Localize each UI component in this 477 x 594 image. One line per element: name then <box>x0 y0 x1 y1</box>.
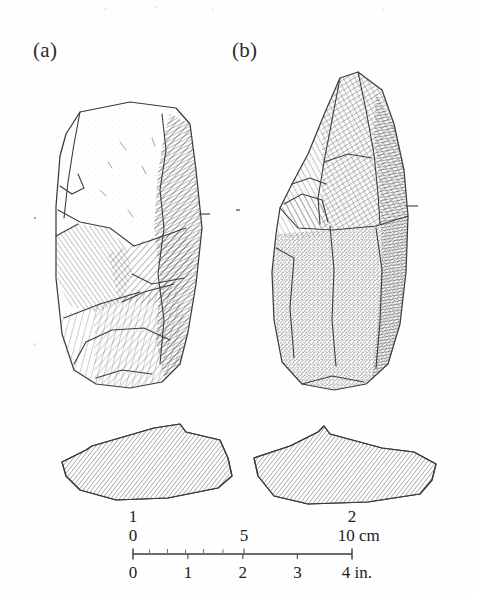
scale-in-label-4: 4 in. <box>342 564 372 581</box>
stone-tool-drawing-b <box>236 58 432 402</box>
scale-bar: 1 2 0 5 10 cm <box>100 508 400 586</box>
figure-canvas: (a) (b) <box>0 0 477 594</box>
scale-bar-line <box>100 546 400 562</box>
panel-label-a: (a) <box>33 40 57 61</box>
stone-tool-drawing-a <box>34 78 224 400</box>
scale-metric-labels: 0 5 10 cm <box>100 527 400 547</box>
scale-in-label-0: 0 <box>129 564 138 581</box>
scale-figure-number-1: 1 <box>129 508 138 525</box>
scan-speckle <box>212 9 214 11</box>
scan-speckle <box>252 7 254 9</box>
scale-cm-label-10: 10 cm <box>338 527 380 544</box>
cross-section-b <box>250 412 446 508</box>
scale-in-label-1: 1 <box>184 564 193 581</box>
scan-speckle <box>154 6 157 8</box>
cross-section-a <box>60 414 248 506</box>
scale-figure-number-2: 2 <box>348 508 357 525</box>
scan-speckle <box>382 9 384 11</box>
scale-cm-label-0: 0 <box>129 527 138 544</box>
scale-figure-numbers: 1 2 <box>100 508 400 528</box>
scale-in-label-2: 2 <box>239 564 248 581</box>
scan-speckle <box>104 8 107 10</box>
scale-cm-label-5: 5 <box>240 527 249 544</box>
scale-in-label-3: 3 <box>293 564 302 581</box>
scale-imperial-labels: 0 1 2 3 4 in. <box>100 564 400 584</box>
